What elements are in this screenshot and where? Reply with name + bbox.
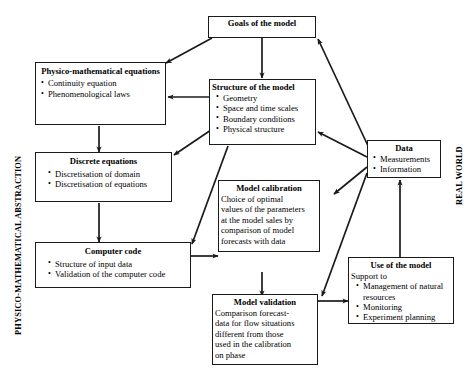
node-data[interactable]: Data Measurements Information — [367, 140, 441, 178]
node-title: Goals of the model — [209, 17, 315, 29]
node-discrete-equations[interactable]: Discrete equations Discretisation of dom… — [35, 152, 172, 202]
list-item: Phenomenological laws — [48, 89, 163, 100]
list-item: Structure of input data — [55, 259, 188, 270]
node-item-list: Geometry Space and time scales Boundary … — [210, 93, 315, 135]
node-use-of-the-model[interactable]: Use of the model Support to Management o… — [348, 257, 454, 324]
node-title: Use of the model — [349, 259, 453, 271]
node-title: Structure of the model — [210, 81, 315, 93]
calibration-line-2: values of the parameters — [219, 204, 319, 215]
side-label-right: REAL WORLD — [455, 146, 464, 205]
node-item-list: Management of natural resources Monitori… — [349, 281, 453, 323]
edge-data-structure — [318, 132, 367, 157]
node-item-list: Measurements Information — [368, 154, 440, 175]
node-item-list: Structure of input data Validation of th… — [36, 259, 190, 280]
list-item: Boundary conditions — [223, 114, 313, 125]
edge-data-calibration — [334, 167, 367, 194]
list-item: Management of natural resources — [363, 281, 451, 302]
node-item-list: Discretisation of domain Discretisation … — [36, 169, 171, 190]
validation-line-4: used in the calibration — [213, 339, 317, 350]
node-structure-of-the-model[interactable]: Structure of the model Geometry Space an… — [209, 79, 316, 145]
node-title: Data — [368, 142, 440, 154]
node-item-list: Continuity equation Phenomenological law… — [36, 78, 165, 99]
side-label-left: PHYSICO-MATHEMATICAL ABSTRACTION — [14, 156, 23, 335]
node-title: Physico-mathematical equations — [36, 65, 165, 76]
list-item: Geometry — [223, 93, 313, 104]
node-physico-mathematical-equations[interactable]: Physico-mathematical equations Continuit… — [35, 62, 166, 125]
list-item: Physical structure — [223, 124, 313, 135]
list-item: Measurements — [380, 154, 438, 165]
list-item: Discretisation of equations — [55, 179, 169, 190]
node-title: Discrete equations — [36, 155, 171, 167]
list-item: Validation of the computer code — [55, 269, 188, 280]
node-model-validation[interactable]: Model validation Comparison forecast- da… — [212, 294, 318, 365]
list-item: Discretisation of domain — [55, 169, 169, 180]
use-intro: Support to — [349, 271, 453, 282]
node-computer-code[interactable]: Computer code Structure of input data Va… — [35, 242, 191, 288]
node-title: Model validation — [213, 296, 317, 308]
node-goals-of-the-model[interactable]: Goals of the model — [208, 16, 316, 38]
calibration-line-3: at the model sales by — [219, 215, 319, 226]
list-item: Information — [380, 164, 438, 175]
list-item: Experiment planning — [363, 312, 451, 322]
list-item: Space and time scales — [223, 103, 313, 114]
calibration-line-1: Choice of optimal — [219, 194, 319, 205]
node-title: Computer code — [36, 245, 190, 257]
list-item: Monitoring — [363, 302, 451, 312]
list-item: Continuity equation — [48, 78, 163, 89]
validation-line-1: Comparison forecast- — [213, 308, 317, 319]
edge-goals-physico — [166, 38, 212, 63]
node-title: Model calibration — [219, 182, 319, 194]
node-title-text: Physico-mathematical equations — [41, 66, 160, 76]
edge-structure-discrete — [174, 130, 211, 155]
node-model-calibration[interactable]: Model calibration Choice of optimal valu… — [218, 180, 320, 252]
validation-line-2: data for flow situations — [213, 318, 317, 329]
calibration-line-5: forecasts with data — [219, 236, 319, 247]
validation-line-3: different from those — [213, 329, 317, 340]
calibration-line-4: comparison of model — [219, 225, 319, 236]
diagram-canvas: Goals of the model Physico-mathematical … — [0, 0, 471, 372]
edge-data-goals — [318, 39, 369, 148]
validation-line-5: on phase — [213, 350, 317, 361]
